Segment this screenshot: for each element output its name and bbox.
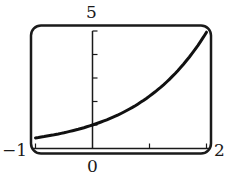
x-origin-label: 0 [87,158,98,175]
function-curve [36,32,207,138]
x-max-label: 2 [214,142,225,159]
y-max-label: 5 [86,4,97,21]
graph-canvas [0,0,227,184]
x-min-label: −1 [2,142,27,159]
